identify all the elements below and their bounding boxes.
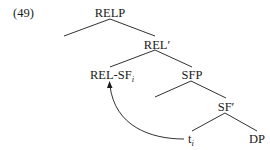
branch-sfbar-trace [192, 113, 225, 131]
branch-sfbar-dp [225, 113, 257, 131]
node-relp: RELP [95, 7, 126, 19]
node-dp: DP [249, 133, 265, 145]
branch-relbar-relsf [110, 50, 155, 67]
node-relp-label: RELP [95, 6, 126, 20]
node-sfp: SFP [182, 69, 203, 81]
node-sf-bar: SF′ [218, 101, 235, 113]
branch-relbar-sfp [155, 50, 192, 67]
node-rel-sf-subscript: i [132, 74, 134, 84]
node-rel-bar: REL′ [144, 39, 170, 51]
node-rel-sf-label: REL-SF [90, 68, 132, 82]
tree-branches [0, 0, 270, 150]
branch-sfp-sfbar [191, 81, 226, 98]
node-sf-bar-label: SF′ [218, 100, 235, 114]
branch-sfp-spec [155, 81, 191, 97]
node-trace: ti [188, 133, 194, 146]
node-rel-sf: REL-SFi [90, 69, 134, 82]
movement-arrow [110, 86, 184, 139]
arrowhead-icon [107, 81, 113, 88]
node-rel-bar-label: REL′ [144, 38, 170, 52]
node-dp-label: DP [249, 132, 265, 146]
node-trace-subscript: i [192, 138, 194, 148]
branch-relp-relbar [110, 19, 155, 36]
node-sfp-label: SFP [182, 68, 203, 82]
branch-relp-spec [64, 19, 110, 36]
